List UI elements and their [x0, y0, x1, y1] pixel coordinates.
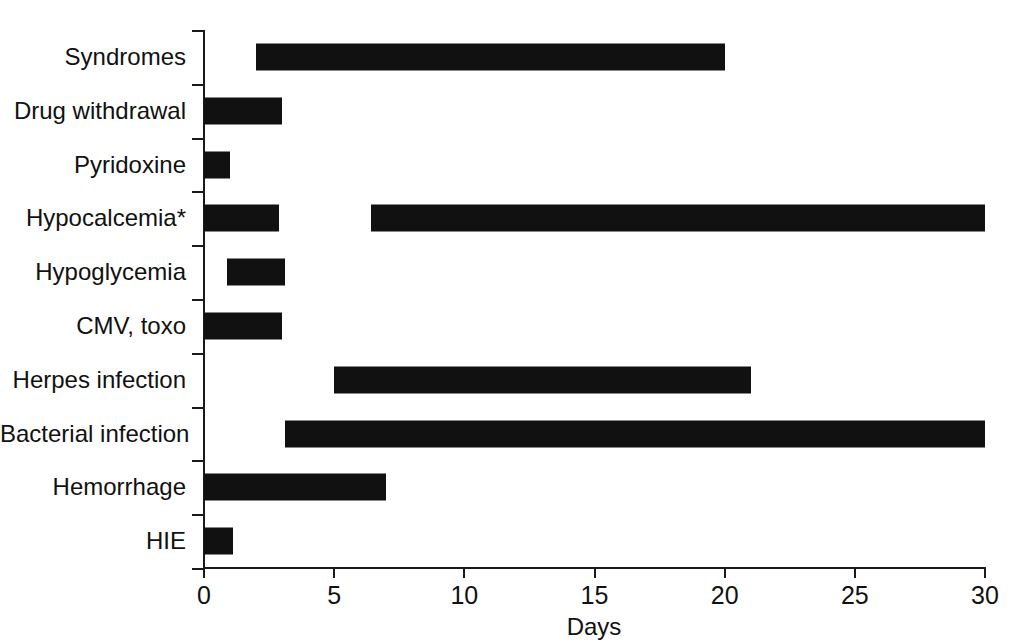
- y-axis-tick: [192, 514, 204, 516]
- bar-segment: [204, 97, 282, 124]
- x-axis-tick: [203, 567, 205, 578]
- bar-segment: [334, 366, 751, 393]
- x-axis-tick: [984, 567, 986, 578]
- y-axis-label: Pyridoxine: [0, 152, 186, 178]
- y-axis-tick: [192, 191, 204, 193]
- x-axis-tick-label: 10: [450, 580, 478, 610]
- y-axis-tick: [192, 407, 204, 409]
- x-axis-tick-label: 30: [971, 580, 999, 610]
- bar-segment: [204, 474, 386, 501]
- bar-segment: [204, 312, 282, 339]
- y-axis-tick: [192, 460, 204, 462]
- x-axis-tick-label: 20: [711, 580, 739, 610]
- x-axis-title: Days: [567, 613, 622, 641]
- x-axis-tick: [594, 567, 596, 578]
- x-axis-tick-label: 5: [327, 580, 341, 610]
- x-axis-tick: [463, 567, 465, 578]
- x-axis-tick: [333, 567, 335, 578]
- x-axis-tick-label: 15: [581, 580, 609, 610]
- y-axis-label: CMV, toxo: [0, 313, 186, 339]
- bar-segment: [371, 205, 985, 232]
- y-axis-label: Hemorrhage: [0, 474, 186, 500]
- x-axis-tick: [724, 567, 726, 578]
- x-axis-tick: [854, 567, 856, 578]
- bar-segment: [256, 43, 725, 70]
- bar-segment: [204, 528, 233, 555]
- y-axis-tick: [192, 138, 204, 140]
- y-axis-tick: [192, 299, 204, 301]
- y-axis-tick: [192, 84, 204, 86]
- bar-segment: [204, 151, 230, 178]
- chart-figure: 051015202530 SyndromesDrug withdrawalPyr…: [0, 0, 1023, 644]
- y-axis-label: Drug withdrawal: [0, 98, 186, 124]
- y-axis-label: Herpes infection: [0, 367, 186, 393]
- bar-segment: [204, 205, 279, 232]
- y-axis-tick: [192, 353, 204, 355]
- y-axis-tick: [192, 30, 204, 32]
- y-axis-label: Syndromes: [0, 44, 186, 70]
- y-axis-label: Bacterial infection: [0, 421, 186, 447]
- x-axis-tick-label: 0: [197, 580, 211, 610]
- y-axis-label: Hypocalcemia*: [0, 205, 186, 231]
- bar-segment: [227, 259, 284, 286]
- plot-area: [204, 30, 985, 568]
- x-axis-tick-label: 25: [841, 580, 869, 610]
- y-axis-tick: [192, 245, 204, 247]
- y-axis-label: Hypoglycemia: [0, 259, 186, 285]
- bar-segment: [285, 420, 985, 447]
- y-axis-label: HIE: [0, 528, 186, 554]
